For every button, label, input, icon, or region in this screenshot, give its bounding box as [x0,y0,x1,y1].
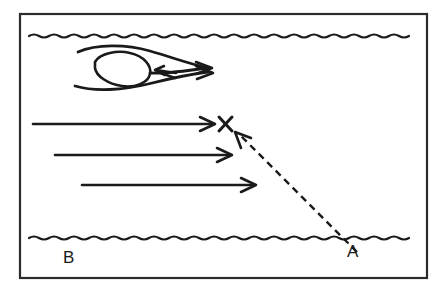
sighting-arrow-head [235,132,251,148]
eddy-core-blob [95,52,150,87]
flow-arrow-2 [55,148,232,162]
bottom-bank-wavy-line [29,237,409,240]
eddy-lower-streamline [75,72,208,90]
sighting-dashed-line [240,135,357,252]
eddy-inner-left-arrow [155,66,176,78]
flow-arrow-3 [82,178,256,192]
eddy-upper-streamline [78,46,208,68]
top-bank-wavy-line [29,35,409,38]
label-point-b: B [63,249,75,266]
label-point-a: A [347,243,359,260]
figure-root: A B [0,0,445,291]
flow-arrow-1 [33,117,215,131]
target-x-marker [219,117,232,131]
